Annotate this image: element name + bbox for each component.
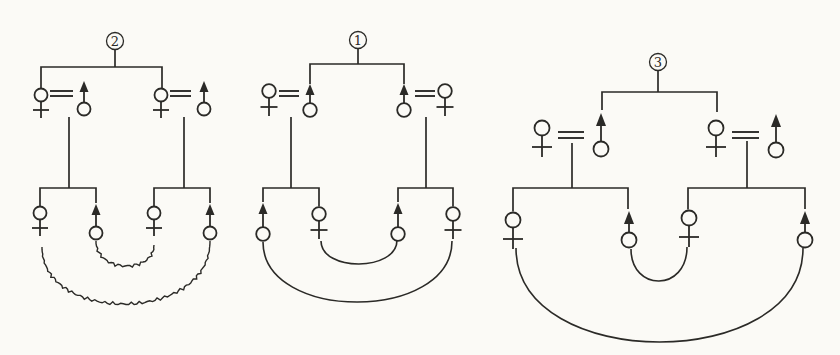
diagram-3: 3 xyxy=(503,54,813,342)
male-symbol xyxy=(256,203,270,241)
up-arrow-icon xyxy=(394,203,403,214)
inner-marriage-arc xyxy=(96,241,154,267)
female-symbol xyxy=(311,207,328,239)
descent-line xyxy=(310,64,404,84)
outer-marriage-arc xyxy=(263,241,452,302)
outer-marriage-arc xyxy=(516,248,803,342)
female-symbol xyxy=(146,207,162,237)
female-symbol xyxy=(437,84,454,116)
male-symbol xyxy=(90,204,103,240)
male-symbol xyxy=(397,84,411,117)
female-symbol xyxy=(706,121,726,158)
up-arrow-icon xyxy=(800,211,810,224)
female-symbol xyxy=(445,207,462,239)
male-symbol xyxy=(594,113,609,157)
male-symbol xyxy=(303,84,317,117)
descent-line xyxy=(513,188,628,212)
male-symbol xyxy=(78,81,91,116)
marriage-equals xyxy=(50,91,73,96)
up-arrow-icon xyxy=(80,81,89,92)
apical-label-number: 3 xyxy=(654,55,662,70)
female-symbol xyxy=(32,207,48,237)
marriage-equals xyxy=(558,132,584,138)
apical-label-number: 2 xyxy=(111,34,119,49)
outer-marriage-arc xyxy=(42,241,210,305)
marriage-equals xyxy=(415,91,435,96)
male-symbol xyxy=(204,204,217,240)
inner-marriage-arc xyxy=(631,247,687,281)
marriage-equals xyxy=(170,91,191,96)
descent-line xyxy=(154,188,210,207)
male-symbol xyxy=(391,203,405,241)
female-symbol xyxy=(679,211,699,248)
kinship-diagram-figure: 213 xyxy=(0,0,840,355)
inner-marriage-arc xyxy=(321,240,397,264)
female-symbol xyxy=(261,84,278,116)
up-arrow-icon xyxy=(92,204,101,215)
male-symbol xyxy=(198,81,211,116)
female-symbol xyxy=(153,89,169,119)
descent-line xyxy=(41,67,162,89)
up-arrow-icon xyxy=(306,84,315,95)
apical-label-1: 1 xyxy=(350,32,367,49)
descent-line xyxy=(40,188,96,207)
descent-line xyxy=(602,92,717,112)
marriage-equals xyxy=(732,132,759,138)
male-symbol xyxy=(769,114,784,158)
apical-label-3: 3 xyxy=(650,54,667,71)
female-symbol xyxy=(33,89,49,119)
up-arrow-icon xyxy=(624,211,634,224)
female-symbol xyxy=(503,213,523,250)
up-arrow-icon xyxy=(596,113,606,126)
scanned-figure-page: 213 xyxy=(0,0,840,355)
descent-line xyxy=(398,188,453,207)
descent-line xyxy=(263,188,319,207)
apical-label-number: 1 xyxy=(354,33,362,48)
up-arrow-icon xyxy=(771,114,781,127)
male-symbol xyxy=(622,211,637,248)
apical-label-2: 2 xyxy=(107,33,124,50)
up-arrow-icon xyxy=(200,81,209,92)
up-arrow-icon xyxy=(400,84,409,95)
diagram-2: 2 xyxy=(32,33,217,305)
up-arrow-icon xyxy=(259,203,268,214)
male-symbol xyxy=(798,211,813,248)
marriage-equals xyxy=(279,91,299,96)
up-arrow-icon xyxy=(206,204,215,215)
female-symbol xyxy=(532,121,552,158)
diagram-1: 1 xyxy=(256,32,461,303)
descent-line xyxy=(688,188,805,210)
